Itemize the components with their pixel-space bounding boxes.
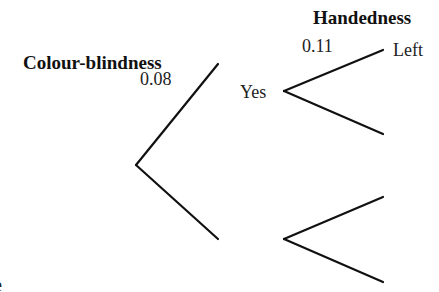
cropped-glyph: e bbox=[0, 276, 2, 292]
branch-no-lower bbox=[284, 239, 383, 282]
branch-no-upper bbox=[284, 197, 383, 239]
prob-yes-left: 0.11 bbox=[302, 37, 333, 55]
prob-stage1-yes: 0.08 bbox=[140, 70, 172, 88]
outcome-yes: Yes bbox=[240, 83, 266, 101]
stage2-header: Handedness bbox=[313, 8, 411, 27]
branch-stage1-no bbox=[136, 165, 218, 239]
branch-yes-left bbox=[284, 50, 383, 91]
tree-diagram bbox=[0, 0, 439, 292]
outcome-left: Left bbox=[393, 41, 423, 59]
branch-yes-right bbox=[284, 91, 383, 134]
